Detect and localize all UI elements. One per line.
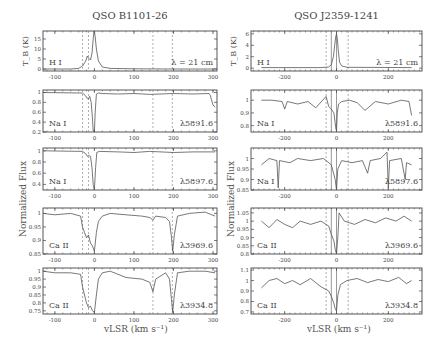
svg-text:15: 15	[34, 36, 41, 42]
svg-text:1: 1	[38, 210, 42, 216]
svg-text:0.4: 0.4	[32, 119, 41, 125]
svg-text:0.9: 0.9	[240, 177, 249, 183]
svg-text:0: 0	[335, 74, 339, 80]
svg-text:-200: -200	[279, 257, 292, 263]
svg-text:0.8: 0.8	[32, 159, 41, 165]
svg-text:200: 200	[383, 193, 394, 199]
svg-text:0.9: 0.9	[32, 237, 41, 243]
svg-text:100: 100	[129, 257, 140, 263]
svg-text:200: 200	[383, 74, 394, 80]
svg-text:200: 200	[383, 257, 394, 263]
svg-text:0.8: 0.8	[32, 300, 41, 306]
svg-text:λ5891.6: λ5891.6	[180, 119, 213, 128]
svg-text:0.85: 0.85	[29, 292, 42, 298]
svg-text:0.7: 0.7	[240, 309, 249, 315]
svg-text:0: 0	[93, 257, 97, 263]
svg-text:2: 2	[246, 54, 250, 60]
svg-text:Na I: Na I	[257, 119, 274, 128]
svg-text:0.95: 0.95	[29, 224, 42, 230]
svg-text:T_B (K): T_B (K)	[229, 36, 238, 66]
svg-text:0.2: 0.2	[32, 129, 41, 135]
svg-text:-200: -200	[279, 317, 292, 323]
svg-text:Na I: Na I	[49, 177, 66, 186]
svg-text:6: 6	[246, 31, 250, 37]
svg-text:1: 1	[246, 156, 250, 162]
svg-text:300: 300	[208, 193, 219, 199]
svg-text:4: 4	[246, 42, 250, 48]
svg-text:0: 0	[335, 317, 339, 323]
svg-text:1: 1	[246, 278, 250, 284]
svg-text:1: 1	[38, 148, 42, 154]
svg-text:Ca II: Ca II	[49, 301, 69, 310]
svg-text:Na I: Na I	[257, 177, 274, 186]
svg-text:-100: -100	[49, 135, 62, 141]
svg-text:H I: H I	[49, 58, 62, 67]
svg-text:λ = 21 cm: λ = 21 cm	[376, 58, 418, 67]
svg-text:0.75: 0.75	[29, 308, 42, 314]
svg-text:1.05: 1.05	[237, 210, 250, 216]
svg-text:200: 200	[168, 135, 179, 141]
svg-text:300: 300	[208, 135, 219, 141]
svg-text:Ca II: Ca II	[49, 241, 69, 250]
svg-text:-100: -100	[49, 74, 62, 80]
spectra-figure: -1000100200300051015H Iλ = 21 cmT_B (K)-…	[0, 0, 441, 343]
svg-text:200: 200	[168, 193, 179, 199]
svg-text:0.85: 0.85	[237, 243, 250, 249]
svg-text:0: 0	[335, 193, 339, 199]
svg-text:λ3934.8: λ3934.8	[180, 301, 213, 310]
svg-text:-100: -100	[49, 317, 62, 323]
svg-text:-200: -200	[279, 193, 292, 199]
svg-text:100: 100	[129, 193, 140, 199]
svg-text:0.85: 0.85	[237, 187, 250, 193]
svg-text:0: 0	[93, 135, 97, 141]
svg-text:T_B (K): T_B (K)	[21, 36, 30, 66]
svg-text:0: 0	[93, 317, 97, 323]
svg-text:200: 200	[168, 257, 179, 263]
svg-text:0.85: 0.85	[29, 251, 42, 257]
svg-text:Ca II: Ca II	[257, 301, 277, 310]
svg-text:Na I: Na I	[49, 119, 66, 128]
svg-text:300: 300	[208, 317, 219, 323]
svg-text:100: 100	[129, 74, 140, 80]
svg-text:1: 1	[246, 218, 250, 224]
svg-text:λ5897.6: λ5897.6	[385, 177, 418, 186]
svg-text:0: 0	[38, 66, 42, 72]
svg-text:300: 300	[208, 257, 219, 263]
svg-text:0.4: 0.4	[32, 181, 41, 187]
svg-text:λ3969.6: λ3969.6	[180, 241, 213, 250]
svg-text:0.6: 0.6	[32, 170, 41, 176]
svg-text:H I: H I	[257, 58, 270, 67]
svg-text:0.9: 0.9	[240, 288, 249, 294]
svg-text:-200: -200	[279, 74, 292, 80]
svg-text:0.95: 0.95	[29, 276, 42, 282]
svg-text:10: 10	[34, 46, 41, 52]
svg-text:-100: -100	[49, 257, 62, 263]
svg-text:0: 0	[93, 74, 97, 80]
svg-text:0.8: 0.8	[240, 251, 249, 257]
svg-text:-200: -200	[279, 135, 292, 141]
svg-text:0: 0	[335, 135, 339, 141]
svg-text:0.8: 0.8	[240, 298, 249, 304]
svg-text:λ5891.6: λ5891.6	[385, 119, 418, 128]
svg-text:0.9: 0.9	[240, 235, 249, 241]
svg-text:0.9: 0.9	[32, 284, 41, 290]
svg-text:0.95: 0.95	[237, 166, 250, 172]
svg-text:0.8: 0.8	[240, 123, 249, 129]
svg-text:1.1: 1.1	[240, 267, 249, 273]
svg-text:0: 0	[335, 257, 339, 263]
svg-text:0: 0	[246, 65, 250, 71]
svg-text:1: 1	[246, 97, 250, 103]
svg-text:-100: -100	[49, 193, 62, 199]
svg-text:0.8: 0.8	[32, 99, 41, 105]
svg-text:λ3969.6: λ3969.6	[385, 241, 418, 250]
svg-text:1: 1	[38, 268, 42, 274]
svg-text:0.6: 0.6	[32, 109, 41, 115]
svg-text:100: 100	[129, 135, 140, 141]
svg-text:200: 200	[168, 317, 179, 323]
svg-text:λ3934.8: λ3934.8	[385, 301, 418, 310]
svg-text:Ca II: Ca II	[257, 241, 277, 250]
svg-text:200: 200	[383, 317, 394, 323]
svg-text:300: 300	[208, 74, 219, 80]
svg-text:1: 1	[38, 89, 42, 95]
svg-text:λ = 21 cm: λ = 21 cm	[171, 58, 213, 67]
